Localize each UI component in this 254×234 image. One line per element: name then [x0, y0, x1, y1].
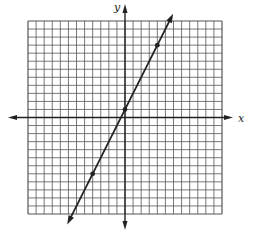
line-arrow-down-icon [67, 215, 74, 224]
x-axis-left-arrow-icon [8, 115, 17, 120]
x-axis-right-arrow-icon [224, 115, 233, 120]
x-axis-label: x [238, 112, 245, 125]
coordinate-plane-chart: x y [0, 0, 254, 234]
line-arrow-up-icon [166, 14, 173, 23]
data-point [90, 171, 95, 176]
data-point [123, 107, 128, 112]
data-point [155, 43, 160, 48]
axes: x y [8, 1, 245, 230]
y-axis-up-arrow-icon [123, 4, 128, 13]
y-axis-down-arrow-icon [123, 221, 128, 230]
y-axis-label: y [113, 1, 121, 14]
